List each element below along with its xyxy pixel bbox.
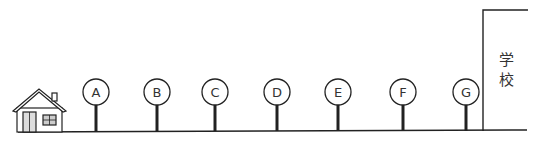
sign-label: D xyxy=(272,85,282,100)
sign-label: C xyxy=(210,85,219,100)
sign-label: A xyxy=(92,85,101,100)
sign-f: F xyxy=(390,79,416,131)
house-icon xyxy=(13,89,66,132)
sign-label: G xyxy=(461,85,471,100)
road-line xyxy=(18,130,527,132)
sign-d: D xyxy=(264,79,290,131)
school-label-char-2: 校 xyxy=(496,70,516,90)
sign-label: F xyxy=(399,85,406,100)
diagram-svg: ABCDEFG xyxy=(0,0,539,145)
sign-e: E xyxy=(325,79,351,131)
school-label: 学 校 xyxy=(496,50,516,90)
sign-a: A xyxy=(83,79,109,131)
school-label-char-1: 学 xyxy=(496,50,516,70)
sign-c: C xyxy=(202,79,228,131)
sign-b: B xyxy=(144,79,170,131)
signs-group: ABCDEFG xyxy=(83,79,479,131)
route-diagram: ABCDEFG 学 校 xyxy=(0,0,539,145)
sign-label: E xyxy=(334,85,342,100)
sign-label: B xyxy=(153,85,162,100)
sign-g: G xyxy=(453,79,479,131)
